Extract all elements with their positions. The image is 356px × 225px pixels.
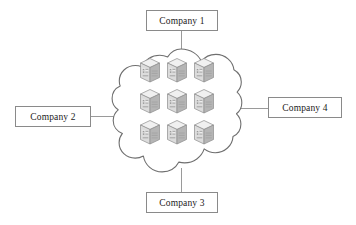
company-box-company-3[interactable]: Company 3 xyxy=(146,192,218,213)
server-icon xyxy=(141,59,160,83)
company-box-company-4[interactable]: Company 4 xyxy=(268,97,342,118)
company-label: Company 1 xyxy=(159,16,204,26)
company-label: Company 2 xyxy=(30,112,75,122)
server-icon xyxy=(141,90,160,114)
diagram-canvas: Company 1 Company 2 Company 3 Company 4 xyxy=(0,0,356,225)
company-box-company-1[interactable]: Company 1 xyxy=(146,10,218,31)
server-icon xyxy=(141,121,160,145)
company-label: Company 3 xyxy=(159,198,204,208)
server-icon xyxy=(168,121,187,145)
server-icon xyxy=(195,121,214,145)
server-icon xyxy=(195,59,214,83)
server-icon xyxy=(168,90,187,114)
company-label: Company 4 xyxy=(282,103,327,113)
company-box-company-2[interactable]: Company 2 xyxy=(15,106,91,127)
server-icon xyxy=(168,59,187,83)
server-icon xyxy=(195,90,214,114)
